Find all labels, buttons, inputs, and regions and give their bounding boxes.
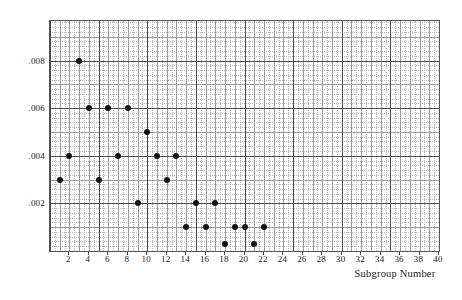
data-point [251,241,257,247]
data-points-layer [50,21,439,251]
gridline-horizontal [50,146,439,147]
gridline-vertical [123,21,124,251]
gridline-vertical [84,21,85,251]
gridline-horizontal [50,132,439,133]
data-point [261,224,267,230]
gridline-vertical [60,21,61,251]
gridline-vertical [206,21,207,251]
data-point [66,153,72,159]
gridline-vertical [298,21,299,251]
gridline-vertical [196,21,197,251]
gridline-vertical [386,21,387,251]
gridline-vertical [410,21,411,251]
gridline-vertical [181,21,182,251]
gridline-horizontal [50,70,439,71]
gridline-horizontal [50,189,439,190]
gridline-horizontal [50,141,439,142]
gridline-horizontal [50,213,439,214]
gridline-vertical [249,21,250,251]
data-point [57,177,63,183]
gridline-horizontal [50,199,439,200]
gridline-vertical [108,21,109,251]
gridline-vertical [439,21,440,251]
gridline-vertical [186,21,187,251]
gridline-horizontal [50,137,439,138]
gridline-vertical [69,21,70,251]
gridline-vertical [55,21,56,251]
gridline-horizontal [50,103,439,104]
data-point [125,105,131,111]
data-point [173,153,179,159]
gridline-vertical [303,21,304,251]
gridline-horizontal [50,41,439,42]
gridline-vertical [283,21,284,251]
gridline-horizontal [50,222,439,223]
gridline-vertical [230,21,231,251]
gridline-horizontal [50,208,439,209]
gridline-vertical [133,21,134,251]
gridline-vertical [376,21,377,251]
gridline-vertical [191,21,192,251]
gridline-vertical [342,21,343,251]
data-point [154,153,160,159]
y-tick-label: .008 [1,57,45,66]
data-point [232,224,238,230]
gridline-vertical [254,21,255,251]
gridline-vertical [434,21,435,251]
gridline-vertical [327,21,328,251]
gridline-horizontal [50,94,439,95]
gridline-horizontal [50,127,439,128]
gridline-vertical [351,21,352,251]
major-gridlines [50,21,439,251]
gridline-vertical [240,21,241,251]
gridline-horizontal [50,51,439,52]
gridline-vertical [79,21,80,251]
gridline-vertical [293,21,294,251]
gridline-horizontal [50,218,439,219]
data-point [242,224,248,230]
gridline-horizontal [50,56,439,57]
gridline-vertical [371,21,372,251]
gridline-vertical [337,21,338,251]
gridline-vertical [317,21,318,251]
gridline-vertical [215,21,216,251]
gridline-vertical [279,21,280,251]
gridline-vertical [308,21,309,251]
gridline-horizontal [50,203,439,204]
gridline-vertical [245,21,246,251]
gridline-horizontal [50,237,439,238]
gridline-horizontal [50,37,439,38]
gridline-vertical [210,21,211,251]
gridline-horizontal [50,65,439,66]
gridline-vertical [322,21,323,251]
y-axis-tick-labels: .002.004.006.008 [0,20,45,252]
gridline-horizontal [50,27,439,28]
gridline-vertical [94,21,95,251]
gridline-vertical [138,21,139,251]
gridline-horizontal [50,75,439,76]
data-point [212,200,218,206]
gridline-horizontal [50,170,439,171]
gridline-vertical [147,21,148,251]
gridline-horizontal [50,32,439,33]
gridline-horizontal [50,22,439,23]
data-point [164,177,170,183]
gridline-horizontal [50,165,439,166]
gridline-vertical [128,21,129,251]
gridline-vertical [113,21,114,251]
gridline-vertical [415,21,416,251]
gridline-vertical [366,21,367,251]
gridline-vertical [429,21,430,251]
data-point [183,224,189,230]
gridline-horizontal [50,161,439,162]
gridline-horizontal [50,227,439,228]
gridline-vertical [395,21,396,251]
data-point [76,58,82,64]
gridline-horizontal [50,246,439,247]
gridline-horizontal [50,156,439,157]
gridline-vertical [405,21,406,251]
gridline-vertical [176,21,177,251]
data-point [105,105,111,111]
y-tick-label: .002 [1,199,45,208]
data-point [203,224,209,230]
